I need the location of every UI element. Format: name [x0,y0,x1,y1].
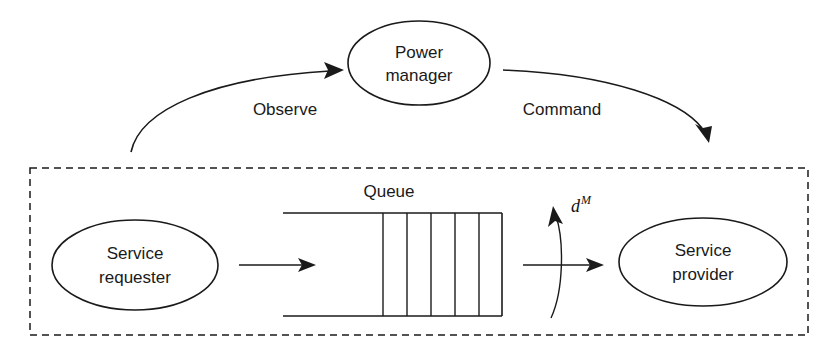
power-manager-ellipse [348,21,490,105]
requester-to-queue-arrow [239,258,316,272]
power-manager-label-line2: manager [385,66,452,85]
node-power-manager[interactable]: Power manager [348,21,490,105]
diagram-canvas: Observe Command Power manager Service re… [0,0,831,362]
service-requester-label-line1: Service [107,244,164,263]
command-arrowhead [695,124,712,143]
decision-variable-label: d [571,196,581,216]
observe-label: Observe [253,100,317,119]
command-edge-path [503,70,702,128]
power-manager-label-line1: Power [395,43,444,62]
queue-slot-dividers [383,213,479,316]
service-rate-arrowhead [548,206,563,227]
service-provider-label-line2: provider [672,265,734,284]
command-label: Command [523,100,601,119]
service-rate-control: d M [548,193,592,318]
node-service-requester[interactable]: Service requester [52,220,218,310]
queue-to-provider-arrow [523,258,604,272]
power-management-diagram: Observe Command Power manager Service re… [0,0,831,362]
queue-shape [283,213,502,316]
service-provider-label-line1: Service [675,241,732,260]
service-requester-label-line2: requester [99,268,171,287]
decision-variable-superscript: M [580,193,592,207]
node-service-provider[interactable]: Service provider [619,218,787,306]
queue-label: Queue [363,182,414,201]
service-provider-ellipse [619,218,787,306]
service-requester-ellipse [52,220,218,310]
service-rate-arc [551,216,561,318]
